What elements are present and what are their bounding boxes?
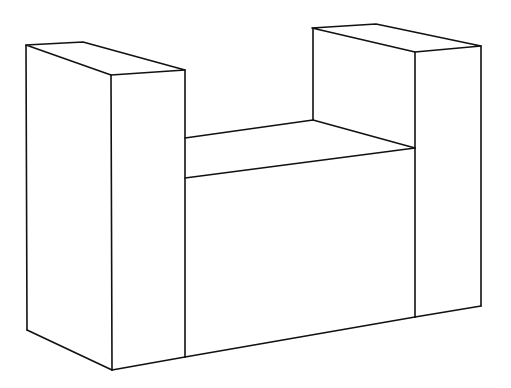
left-pillar [26, 42, 185, 370]
u-block-drawing [0, 0, 511, 388]
right-pillar [312, 24, 481, 317]
left-pillar-bottom-left [27, 330, 112, 370]
left-pillar-bottom-front [112, 357, 185, 370]
middle-block [185, 120, 415, 357]
left-pillar-front-corner-edge [111, 75, 112, 370]
right-pillar-bottom [415, 306, 481, 317]
right-pillar-top-face [312, 24, 481, 52]
middle-top-back-edge [185, 120, 313, 138]
left-pillar-back-edge [26, 45, 27, 330]
middle-top-right-edge [313, 120, 415, 148]
middle-bottom-edge [185, 317, 415, 357]
left-pillar-top-face [26, 42, 185, 75]
middle-top-front-edge [185, 148, 415, 178]
